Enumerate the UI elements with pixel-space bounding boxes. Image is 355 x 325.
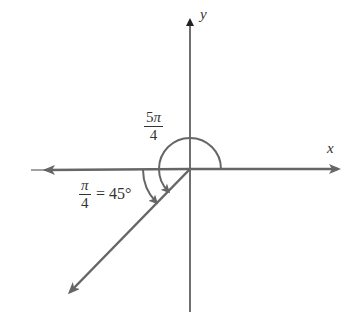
angle-label-pi-4: π 4 bbox=[79, 178, 91, 211]
degree-equivalence: = 45° bbox=[96, 185, 131, 203]
pi-symbol: π bbox=[154, 109, 162, 125]
angle-label-5pi-4: 5π 4 bbox=[144, 110, 163, 143]
fraction-denominator: 4 bbox=[150, 127, 158, 143]
numerator-coef: 5 bbox=[146, 109, 154, 125]
x-axis-label: x bbox=[327, 140, 334, 157]
x-axis-negative bbox=[46, 169, 190, 170]
diagram-graphics bbox=[0, 0, 355, 325]
fraction-denominator: 4 bbox=[81, 195, 89, 211]
y-axis-label: y bbox=[200, 6, 207, 23]
pi-symbol: π bbox=[81, 177, 89, 193]
angle-diagram: y x 5π 4 π 4 = 45° bbox=[0, 0, 355, 325]
fraction-numerator: π bbox=[79, 178, 91, 195]
fraction-numerator: 5π bbox=[144, 110, 163, 127]
angle-arc-pi-4 bbox=[143, 170, 156, 202]
